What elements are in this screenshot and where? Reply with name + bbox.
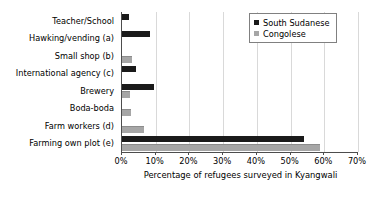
bar [122, 109, 131, 116]
category-label: Hawking/vending (a) [0, 30, 118, 48]
x-tick [357, 152, 358, 155]
chart-legend: South Sudanese Congolese [249, 13, 337, 43]
x-tick-label: 20% [179, 156, 197, 166]
gray-square-icon [254, 31, 259, 36]
bar [122, 91, 130, 98]
x-axis-title-wrapper: Percentage of refugees surveyed in Kyang… [0, 170, 371, 180]
x-tick-label: 30% [213, 156, 231, 166]
bar-group [122, 117, 358, 135]
x-tick-label: 50% [280, 156, 298, 166]
x-tick-label: 60% [314, 156, 332, 166]
x-tick [290, 152, 291, 155]
x-tick [188, 152, 189, 155]
x-axis-title: Percentage of refugees surveyed in Kyang… [34, 170, 338, 180]
legend-label: Congolese [263, 29, 306, 39]
chart-screenshot: Teacher/School Hawking/vending (a) Small… [0, 0, 371, 200]
bar-group [122, 65, 358, 83]
bar [122, 56, 132, 63]
category-label: Teacher/School [0, 12, 118, 30]
category-label: Boda-boda [0, 100, 118, 118]
horizontal-bar-chart: Teacher/School Hawking/vending (a) Small… [0, 0, 371, 200]
dark-square-icon [254, 20, 259, 25]
legend-label: South Sudanese [263, 18, 330, 28]
bar-spacer [122, 55, 358, 57]
bar-spacer [122, 107, 358, 109]
legend-entry-south-sudanese: South Sudanese [254, 17, 330, 28]
x-tick [323, 152, 324, 155]
bar-group [122, 82, 358, 100]
x-tick [256, 152, 257, 155]
x-tick [121, 152, 122, 155]
x-tick-label: 70% [348, 156, 366, 166]
gridline [358, 12, 359, 152]
category-label: Small shop (b) [0, 47, 118, 65]
category-label: International agency (c) [0, 65, 118, 83]
bar-group [122, 135, 358, 153]
category-label: Farming own plot (e) [0, 135, 118, 153]
bar-group [122, 100, 358, 118]
bar-group [122, 47, 358, 65]
bar-spacer [122, 72, 358, 74]
x-tick-label: 40% [247, 156, 265, 166]
category-label: Brewery [0, 82, 118, 100]
x-tick [222, 152, 223, 155]
x-tick-label: 0% [115, 156, 128, 166]
x-axis-line [121, 152, 357, 153]
legend-entry-congolese: Congolese [254, 28, 330, 39]
x-tick [155, 152, 156, 155]
bar [122, 144, 320, 151]
category-label: Farm workers (d) [0, 117, 118, 135]
bar-spacer [122, 90, 358, 92]
category-axis-labels: Teacher/School Hawking/vending (a) Small… [0, 12, 118, 152]
bar [122, 126, 144, 133]
bar-spacer [122, 125, 358, 127]
x-tick-label: 10% [146, 156, 164, 166]
